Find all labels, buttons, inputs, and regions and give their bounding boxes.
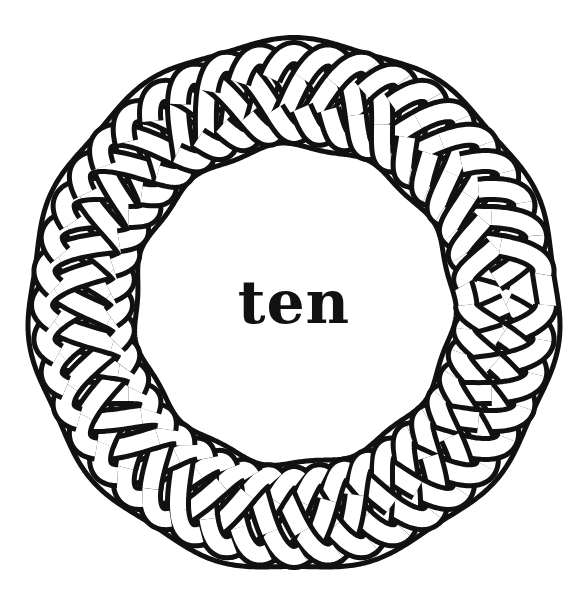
center-word: ten (0, 262, 588, 342)
